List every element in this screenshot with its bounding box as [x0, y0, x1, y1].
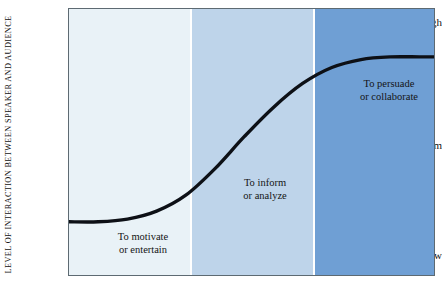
y-axis-title: LEVEL OF INTERACTION BETWEEN SPEAKER AND…	[0, 0, 16, 289]
interaction-curve-figure: LEVEL OF INTERACTION BETWEEN SPEAKER AND…	[0, 0, 442, 289]
plot-area: To motivate or entertain To inform or an…	[68, 8, 435, 276]
zone-label-line1: To persuade	[333, 77, 435, 90]
zone-label-inform-analyze: To inform or analyze	[213, 176, 317, 202]
zone-label-line2: or collaborate	[333, 90, 435, 103]
zone-label-line2: or analyze	[213, 189, 317, 202]
zone-label-persuade-collaborate: To persuade or collaborate	[333, 77, 435, 103]
zone-label-line2: or entertain	[91, 243, 195, 256]
zone-label-line1: To inform	[213, 176, 317, 189]
zone-label-motivate-entertain: To motivate or entertain	[91, 230, 195, 256]
zone-label-line1: To motivate	[91, 230, 195, 243]
